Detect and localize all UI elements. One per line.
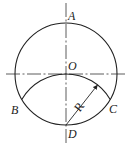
label-o: O <box>68 59 77 73</box>
label-c: C <box>109 102 118 116</box>
label-a: A <box>67 9 76 23</box>
label-b: B <box>11 103 19 117</box>
geometry-diagram: A O B C D R <box>0 0 132 148</box>
label-d: D <box>67 127 77 141</box>
